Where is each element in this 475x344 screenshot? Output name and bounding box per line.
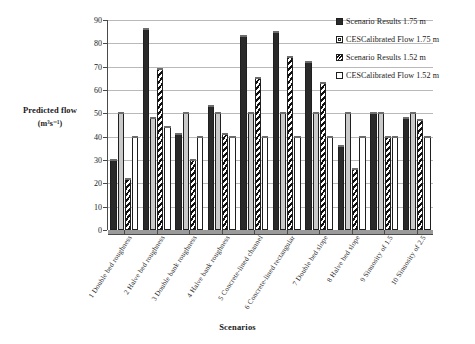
y-tick-mark-50 [103, 113, 107, 114]
bar-group [303, 20, 336, 230]
bar [417, 120, 423, 230]
y-tick-mark-20 [103, 183, 107, 184]
bar [385, 137, 391, 230]
y-tick-label-90: 90 [94, 16, 102, 25]
y-tick-label-80: 80 [94, 39, 102, 48]
bar [262, 137, 268, 230]
bar [370, 113, 376, 230]
y-tick-mark-40 [103, 137, 107, 138]
y-tick-mark-70 [103, 67, 107, 68]
bar [150, 118, 156, 230]
bar [320, 83, 326, 230]
bar [352, 169, 358, 230]
bar [157, 69, 163, 230]
bar [132, 137, 138, 230]
x-axis-title: Scenarios [0, 322, 475, 332]
legend-item[interactable]: Scenario Results 1.75 m [336, 13, 474, 30]
y-tick-label-20: 20 [94, 179, 102, 188]
legend-label: CESCalibrated Flow 1.75 m [346, 35, 439, 44]
bar [327, 137, 333, 230]
y-tick-mark-60 [103, 90, 107, 91]
bar [118, 113, 124, 230]
bar [229, 137, 235, 230]
bar [313, 113, 319, 230]
bar [248, 113, 254, 230]
legend-item[interactable]: CESCalibrated Flow 1.75 m [336, 31, 474, 48]
y-tick-label-70: 70 [94, 62, 102, 71]
y-tick-label-0: 0 [98, 226, 102, 235]
y-tick-label-50: 50 [94, 109, 102, 118]
hatch-swatch [336, 54, 343, 61]
y-tick-label-40: 40 [94, 132, 102, 141]
y-axis-unit-text: (m³s⁻¹) [4, 117, 96, 130]
bar [215, 113, 221, 230]
solid-gray-swatch [336, 36, 343, 43]
legend-label: Scenario Results 1.75 m [346, 17, 426, 26]
bar [164, 127, 170, 230]
y-axis-title-text: Predicted flow [23, 105, 77, 115]
y-tick-mark-30 [103, 160, 107, 161]
legend-item[interactable]: Scenario Results 1.52 m [336, 49, 474, 66]
y-tick-mark-80 [103, 43, 107, 44]
bar [424, 137, 430, 230]
bar [183, 113, 189, 230]
x-axis-label: 8 Halve bed slope [326, 234, 362, 284]
bar-chart: Predicted flow (m³s⁻¹) 01020304050607080… [0, 0, 475, 344]
bar-group [271, 20, 304, 230]
bar [338, 146, 344, 230]
bar [255, 78, 261, 230]
chart-legend: Scenario Results 1.75 mCESCalibrated Flo… [336, 13, 474, 85]
bar-group [238, 20, 271, 230]
bar [175, 134, 181, 230]
bar [143, 29, 149, 230]
y-tick-label-60: 60 [94, 86, 102, 95]
bar-group [141, 20, 174, 230]
white-swatch [336, 72, 343, 79]
solid-dark-swatch [336, 18, 343, 25]
bar [403, 118, 409, 230]
bar [273, 32, 279, 230]
legend-label: Scenario Results 1.52 m [346, 53, 426, 62]
bar-group [206, 20, 239, 230]
legend-item[interactable]: CESCalibrated Flow 1.52 m [336, 67, 474, 84]
y-tick-mark-10 [103, 207, 107, 208]
y-tick-mark-90 [103, 20, 107, 21]
bar [190, 160, 196, 230]
bar [287, 57, 293, 230]
y-tick-label-10: 10 [94, 202, 102, 211]
bar [392, 137, 398, 230]
bar [410, 113, 416, 230]
bar [359, 137, 365, 230]
bar [222, 134, 228, 230]
x-axis-label: 10 Sinuosity of 2.5 [389, 234, 427, 287]
bar [110, 160, 116, 230]
bar [305, 62, 311, 230]
y-axis-title: Predicted flow (m³s⁻¹) [4, 104, 96, 130]
bar-group [173, 20, 206, 230]
y-tick-label-30: 30 [94, 156, 102, 165]
y-tick-mark-0 [103, 230, 107, 231]
bar [197, 137, 203, 230]
bar [240, 36, 246, 230]
bar [208, 106, 214, 230]
bar [125, 179, 131, 230]
bar [345, 113, 351, 230]
legend-label: CESCalibrated Flow 1.52 m [346, 71, 439, 80]
bar [378, 113, 384, 230]
x-axis-label: 7 Double bed slope [291, 234, 330, 287]
x-axis-label: 9 Sinuosity of 1.5 [359, 234, 395, 284]
bar [294, 137, 300, 230]
x-axis-category-labels: 1 Double bed roughness2 Halve bed roughn… [107, 234, 433, 318]
bar [280, 113, 286, 230]
bar-group [108, 20, 141, 230]
